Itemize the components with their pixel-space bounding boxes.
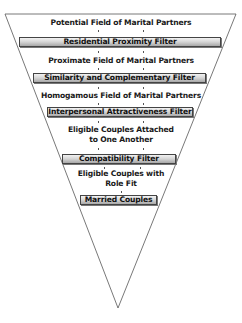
arrow-tick xyxy=(143,103,144,105)
arrow-tick xyxy=(98,51,99,53)
homogamous-field-label: Homogamous Field of Marital Partners xyxy=(0,91,242,101)
arrow-tick xyxy=(143,121,144,123)
eligible-role-fit-label-line1: Eligible Couples with xyxy=(0,169,242,179)
eligible-role-fit-label-line2: Role Fit xyxy=(0,179,242,189)
arrow-tick xyxy=(98,121,99,123)
arrow-tick xyxy=(143,148,144,150)
interpersonal-attractiveness-filter: Interpersonal Attractiveness Filter xyxy=(47,107,193,117)
married-couples-box: Married Couples xyxy=(80,195,157,205)
arrow-tick xyxy=(98,148,99,150)
arrow-tick xyxy=(143,51,144,53)
arrow-tick xyxy=(98,87,99,89)
arrow-tick xyxy=(143,68,144,70)
eligible-attached-label-line2: to One Another xyxy=(0,135,242,145)
arrow-tick xyxy=(98,30,99,32)
compatibility-filter: Compatibility Filter xyxy=(62,154,176,164)
residential-proximity-filter: Residential Proximity Filter xyxy=(19,37,221,47)
potential-field-label: Potential Field of Marital Partners xyxy=(0,18,242,28)
arrow-tick xyxy=(143,87,144,89)
arrow-tick xyxy=(98,68,99,70)
arrow-tick xyxy=(143,30,144,32)
proximate-field-label: Proximate Field of Marital Partners xyxy=(0,56,242,66)
arrow-tick xyxy=(121,191,122,193)
eligible-attached-label-line1: Eligible Couples Attached xyxy=(0,125,242,135)
arrow-tick xyxy=(98,103,99,105)
similarity-complementary-filter: Similarity and Complementary Filter xyxy=(33,73,206,83)
